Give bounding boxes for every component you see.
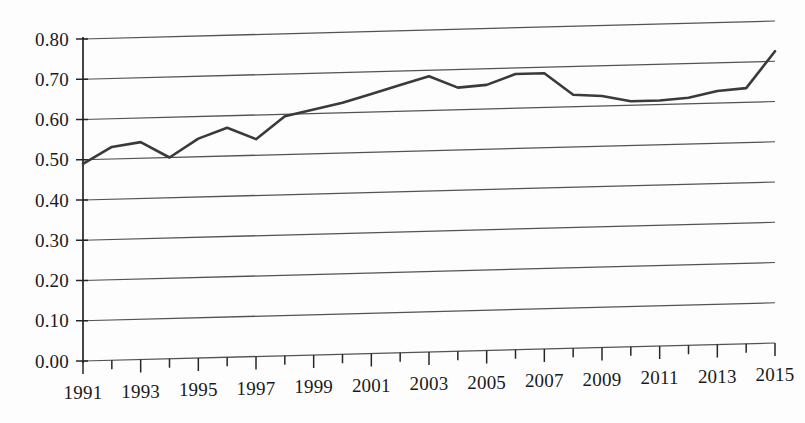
gridline [83,182,775,200]
gridline [83,222,775,240]
x-tick-label: 2005 [467,372,506,393]
x-tick-label: 2009 [583,369,622,390]
gridline [83,102,775,120]
line-chart: 0.000.100.200.300.400.500.600.700.80 199… [0,0,805,423]
y-tick-labels: 0.000.100.200.300.400.500.600.700.80 [35,29,69,372]
x-tick-label: 2011 [641,367,679,388]
x-tick-label: 1993 [121,381,160,402]
y-tick-label: 0.80 [35,29,69,50]
y-tick-label: 0.30 [35,230,69,251]
x-tick-label: 2013 [698,366,737,387]
x-tick-label: 1995 [179,379,218,400]
x-tick-label: 2003 [410,373,449,394]
y-tick-label: 0.40 [35,190,69,211]
x-tick-label: 1997 [237,378,276,399]
y-tick-label: 0.00 [35,351,69,372]
gridlines [83,21,775,361]
x-tick-label: 1991 [64,382,103,403]
y-tick-label: 0.60 [35,109,69,130]
y-tick-label: 0.10 [35,310,69,331]
y-tick-label: 0.50 [35,149,69,170]
chart-canvas: 0.000.100.200.300.400.500.600.700.80 199… [0,0,805,423]
x-tick-label: 2007 [525,370,564,391]
gridline [83,21,775,39]
y-tick-label: 0.20 [35,270,69,291]
y-axis [76,37,88,363]
gridline [83,142,775,160]
x-tick-label: 2001 [352,375,391,396]
gridline [83,303,775,321]
y-tick-label: 0.70 [35,69,69,90]
data-line-series-1 [83,51,775,164]
data-series [83,51,775,164]
x-tick-label: 2015 [756,364,795,385]
gridline [83,263,775,281]
x-tick-labels: 1991199319951997199920012003200520072009… [64,364,795,403]
x-tick-label: 1999 [294,376,333,397]
